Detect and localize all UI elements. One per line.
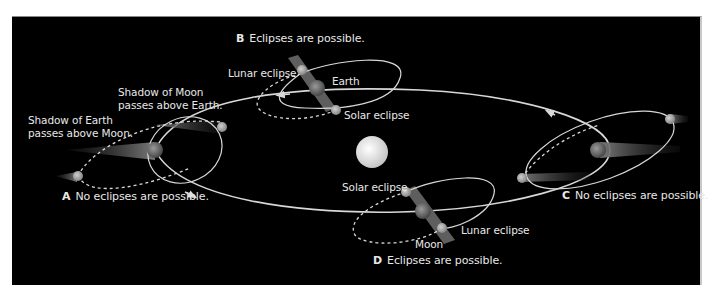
- moon-icon-a1: [217, 122, 227, 132]
- moon-icon-a2: [73, 171, 83, 181]
- moon-icon-b1: [297, 65, 307, 75]
- label-d-solar-eclipse: Solar eclipse: [342, 181, 407, 194]
- earth-icon-c: [590, 142, 606, 158]
- caption-d: DEclipses are possible.: [373, 254, 502, 267]
- moon-icon-d2: [437, 223, 447, 233]
- earth-shadow-a: [65, 142, 155, 160]
- earth-icon-b: [309, 80, 325, 96]
- earth-icon-a: [147, 142, 163, 158]
- label-b-lunar-eclipse: Lunar eclipse: [228, 67, 296, 80]
- caption-c: CNo eclipses are possible.: [562, 189, 708, 202]
- label-d-moon: Moon: [415, 238, 443, 251]
- label-shadow-moon-line2: passes above Earth.: [118, 99, 222, 112]
- moon-icon-b2: [331, 105, 341, 115]
- earth-icon-d: [415, 203, 431, 219]
- sun-icon: [356, 136, 388, 168]
- label-shadow-earth-line2: passes above Moon.: [28, 127, 133, 140]
- label-d-lunar-eclipse: Lunar eclipse: [461, 224, 529, 237]
- moon-icon-c2: [517, 173, 527, 183]
- label-b-solar-eclipse: Solar eclipse: [344, 109, 409, 122]
- earth-shadow-c: [600, 142, 680, 158]
- label-shadow-earth-line1: Shadow of Earth: [28, 114, 113, 127]
- caption-a: ANo eclipses are possible.: [62, 190, 209, 203]
- label-b-earth: Earth: [332, 75, 360, 88]
- caption-b: BEclipses are possible.: [236, 32, 365, 45]
- moon-icon-c1: [665, 114, 675, 124]
- label-shadow-moon-line1: Shadow of Moon: [118, 86, 203, 99]
